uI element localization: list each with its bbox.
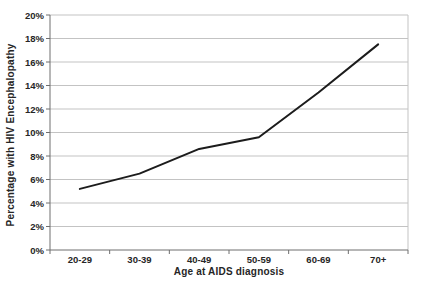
y-tick-label: 4%: [30, 198, 44, 209]
x-tick-label: 50-59: [247, 254, 271, 265]
y-tick-label: 2%: [30, 221, 44, 232]
x-axis-title: Age at AIDS diagnosis: [50, 266, 408, 277]
plot-area: 0%2%4%6%8%10%12%14%16%18%20%20-2930-3940…: [0, 0, 421, 293]
y-tick-label: 6%: [30, 174, 44, 185]
chart-figure: 0%2%4%6%8%10%12%14%16%18%20%20-2930-3940…: [0, 0, 421, 293]
y-tick-label: 14%: [25, 80, 45, 91]
x-tick-label: 20-29: [68, 254, 92, 265]
x-tick-label: 40-49: [187, 254, 211, 265]
y-tick-label: 8%: [30, 151, 44, 162]
y-tick-label: 0%: [30, 245, 44, 256]
y-tick-label: 10%: [25, 127, 45, 138]
x-tick-label: 30-39: [127, 254, 151, 265]
y-tick-label: 16%: [25, 57, 45, 68]
y-tick-label: 12%: [25, 104, 45, 115]
x-tick-label: 60-69: [306, 254, 330, 265]
y-tick-label: 18%: [25, 33, 45, 44]
y-tick-label: 20%: [25, 10, 45, 21]
x-tick-label: 70+: [370, 254, 387, 265]
y-axis-title: Percentage with HIV Encephalopathy: [5, 44, 16, 227]
data-series-line: [80, 44, 378, 189]
